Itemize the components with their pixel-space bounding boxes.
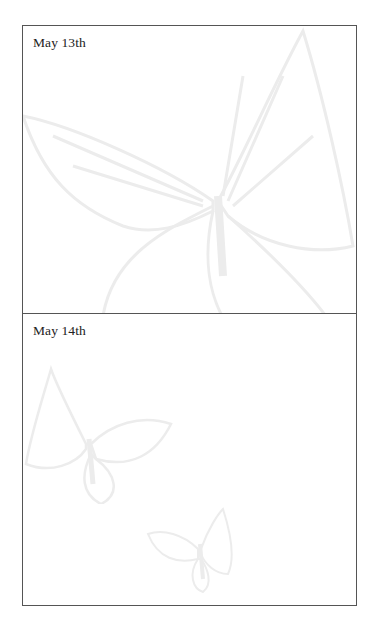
journal-entry-box[interactable]: May 14th (22, 313, 357, 606)
butterfly-watermark-icon (22, 364, 181, 504)
entry-date-label: May 13th (33, 35, 86, 51)
journal-entry-box[interactable]: May 13th (22, 25, 357, 314)
butterfly-watermark-icon (143, 504, 243, 594)
butterfly-watermark-icon (22, 25, 357, 314)
entry-date-label: May 14th (33, 323, 86, 339)
journal-page: May 13th May 14th (0, 0, 379, 632)
